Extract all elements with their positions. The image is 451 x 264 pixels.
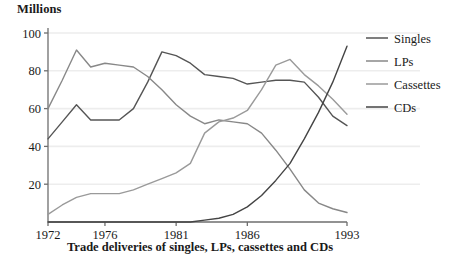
legend-label-cassettes: Cassettes — [394, 78, 441, 92]
line-chart: 10080604020 19721976198119861993 Singles… — [0, 0, 451, 264]
data-series — [48, 46, 347, 222]
y-tick-label: 20 — [29, 178, 42, 192]
y-tick-label: 40 — [29, 140, 42, 154]
x-axis-ticks: 19721976198119861993 — [36, 222, 360, 242]
y-axis-ticks: 10080604020 — [22, 27, 48, 192]
gridlines — [48, 33, 420, 184]
y-tick-label: 80 — [29, 64, 42, 78]
y-tick-label: 60 — [29, 102, 42, 116]
legend-label-singles: Singles — [394, 32, 431, 46]
chart-legend: SinglesLPsCassettesCDs — [366, 32, 441, 115]
chart-container: Millions 10080604020 1972197619811986199… — [0, 0, 451, 264]
axes — [48, 28, 347, 222]
legend-label-cds: CDs — [394, 101, 416, 115]
series-line-singles — [48, 52, 347, 139]
chart-title: Trade deliveries of singles, LPs, casset… — [0, 240, 400, 255]
y-axis-title: Millions — [17, 2, 62, 17]
legend-label-lps: LPs — [394, 55, 414, 69]
series-line-cassettes — [48, 59, 347, 214]
y-tick-label: 100 — [22, 27, 41, 41]
series-line-lps — [48, 50, 347, 213]
